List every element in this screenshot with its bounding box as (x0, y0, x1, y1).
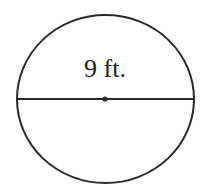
circle-diagram: 9 ft. (0, 0, 204, 185)
diameter-label: 9 ft. (84, 54, 126, 83)
center-point (102, 96, 107, 101)
